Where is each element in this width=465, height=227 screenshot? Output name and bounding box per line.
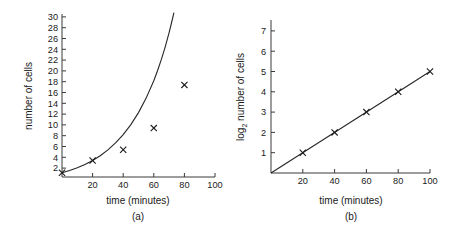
x-tick-label: 20: [87, 180, 97, 190]
x-tick-label: 40: [329, 176, 339, 186]
data-markers-b: [300, 68, 433, 155]
data-line-b: [271, 72, 430, 174]
chart-b-svg: 1 2 3 4 5 6 7 20 40 60 80: [232, 0, 464, 227]
y-tick-label: 1: [261, 148, 266, 158]
panel-b: 1 2 3 4 5 6 7 20 40 60 80: [232, 0, 464, 227]
x-tick-label: 60: [361, 176, 371, 186]
y-tick-label: 20: [48, 66, 58, 76]
y-tick-label: 6: [53, 142, 58, 152]
y-tick-label: 2: [261, 128, 266, 138]
figure-container: 2 4 6 8 10 12 14 16 18 20 22 24 26 28 30: [0, 0, 465, 227]
y-tick-label: 24: [48, 45, 58, 55]
y-tick-label: 22: [48, 55, 58, 65]
y-tick-label: 10: [48, 120, 58, 130]
y-tick-label: 4: [53, 153, 58, 163]
panel-caption-b: (b): [345, 211, 357, 222]
data-point-marker: [427, 68, 433, 74]
x-tick-labels-b: 20 40 60 80 100: [298, 176, 438, 186]
y-tick-label: 26: [48, 34, 58, 44]
y-axis-title-b-rest: number of cells: [235, 53, 246, 124]
y-tick-label: 14: [48, 99, 58, 109]
x-tick-label: 80: [179, 180, 189, 190]
panel-caption-a: (a): [132, 211, 144, 222]
y-tick-label: 16: [48, 88, 58, 98]
x-axis-title-a: time (minutes): [106, 195, 169, 206]
y-tick-label: 30: [48, 12, 58, 22]
x-tick-label: 20: [298, 176, 308, 186]
x-tick-label: 80: [393, 176, 403, 186]
y-tick-label: 3: [261, 107, 266, 117]
y-tick-label: 4: [261, 87, 266, 97]
x-tick-label: 40: [118, 180, 128, 190]
data-point-marker: [120, 147, 126, 153]
y-tick-label: 12: [48, 109, 58, 119]
x-tick-label: 100: [422, 176, 437, 186]
data-curve-a: [62, 13, 174, 173]
data-markers-a: [59, 82, 188, 176]
y-axis-title-b: log2 number of cells: [235, 53, 248, 141]
data-point-marker: [363, 109, 369, 115]
panel-a: 2 4 6 8 10 12 14 16 18 20 22 24 26 28 30: [0, 0, 232, 227]
y-tick-label: 18: [48, 77, 58, 87]
y-ticks-a: [62, 17, 66, 168]
y-axis-title-b-log: log: [235, 128, 246, 141]
y-tick-label: 2: [53, 163, 58, 173]
x-ticks-b: [303, 169, 430, 173]
y-tick-labels-b: 1 2 3 4 5 6 7: [261, 26, 266, 158]
y-tick-label: 8: [53, 131, 58, 141]
data-point-marker: [151, 125, 157, 131]
data-point-marker: [300, 150, 306, 156]
y-tick-label: 28: [48, 23, 58, 33]
y-tick-label: 5: [261, 67, 266, 77]
y-tick-label: 6: [261, 47, 266, 57]
x-tick-label: 100: [207, 180, 222, 190]
x-axis-title-b: time (minutes): [319, 195, 382, 206]
x-ticks-a: [93, 173, 215, 177]
chart-a-svg: 2 4 6 8 10 12 14 16 18 20 22 24 26 28 30: [0, 0, 232, 227]
y-tick-labels-a: 2 4 6 8 10 12 14 16 18 20 22 24 26 28 30: [48, 12, 58, 173]
y-axis-title-a: number of cells: [23, 62, 34, 130]
x-tick-label: 60: [149, 180, 159, 190]
data-point-marker: [181, 82, 187, 88]
data-point-marker: [332, 129, 338, 135]
data-point-marker: [395, 89, 401, 95]
y-ticks-b: [271, 31, 275, 153]
data-point-marker: [90, 157, 96, 163]
y-tick-label: 7: [261, 26, 266, 36]
x-tick-labels-a: 20 40 60 80 100: [87, 180, 222, 190]
